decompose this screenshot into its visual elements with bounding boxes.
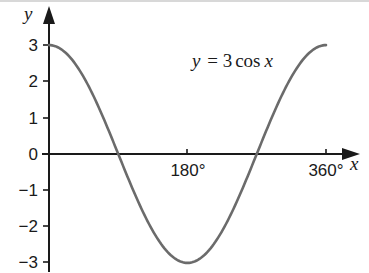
- y-tick-label: 0: [29, 145, 38, 164]
- y-tick-label: −3: [19, 253, 38, 272]
- y-axis-arrow-icon: [43, 6, 55, 24]
- y-axis-label: y: [22, 3, 33, 24]
- y-tick-label: 3: [29, 36, 38, 55]
- y-tick-label: 2: [29, 72, 38, 91]
- y-tick-label: −1: [19, 181, 38, 200]
- x-tick-label: 180°: [170, 161, 205, 180]
- y-tick-label: 1: [29, 109, 38, 128]
- y-tick-label: −2: [19, 217, 38, 236]
- equation-label: y = 3cosx: [190, 50, 273, 71]
- x-axis-label: x: [349, 153, 359, 174]
- cosine-chart: 3 2 1 0 −1 −2 −3 180° 360° y x y = 3cosx: [0, 0, 369, 273]
- x-tick-label: 360°: [308, 161, 343, 180]
